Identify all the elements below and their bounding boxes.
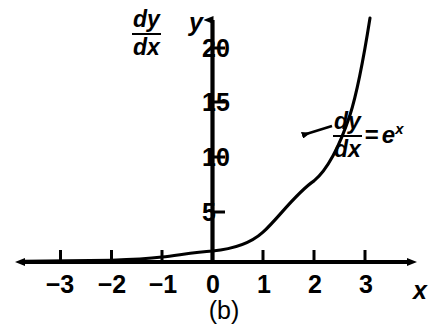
x-tick-label-2: 2 bbox=[308, 272, 322, 297]
x-tick-label-0: 0 bbox=[206, 272, 220, 297]
annotation-expression-base: e bbox=[382, 121, 395, 148]
y-tick-label-20: 20 bbox=[202, 36, 230, 61]
y-tick-label-10: 10 bbox=[202, 145, 230, 170]
y-axis-quantity-label: dy dx bbox=[132, 8, 161, 60]
curve-equation-annotation: dy dx = ex bbox=[333, 110, 404, 162]
annotation-expression: ex bbox=[382, 122, 404, 149]
annotation-fraction: dy dx bbox=[333, 110, 362, 162]
x-tick-label-neg2: −2 bbox=[98, 272, 127, 297]
x-tick-label-1: 1 bbox=[257, 272, 271, 297]
annotation-equals-sign: = bbox=[365, 123, 379, 149]
y-tick-label-5: 5 bbox=[202, 200, 216, 225]
exponential-curve bbox=[24, 18, 370, 261]
y-tick-label-15: 15 bbox=[202, 90, 230, 115]
y-axis-quantity-denominator: dx bbox=[132, 33, 161, 60]
annotation-denominator: dx bbox=[333, 135, 362, 162]
x-tick-label-neg3: −3 bbox=[46, 272, 75, 297]
y-axis-variable-label: y bbox=[189, 10, 203, 35]
annotation-arrow bbox=[303, 126, 332, 135]
y-axis-quantity-numerator: dy bbox=[132, 8, 161, 33]
figure-panel: dy dx y x 5 10 15 20 −3 −2 −1 0 1 2 3 dy… bbox=[0, 0, 448, 331]
x-tick-label-neg1: −1 bbox=[149, 272, 178, 297]
x-tick-label-3: 3 bbox=[359, 272, 373, 297]
figure-caption: (b) bbox=[0, 298, 448, 323]
annotation-expression-exponent: x bbox=[395, 121, 403, 137]
annotation-numerator: dy bbox=[333, 110, 362, 135]
